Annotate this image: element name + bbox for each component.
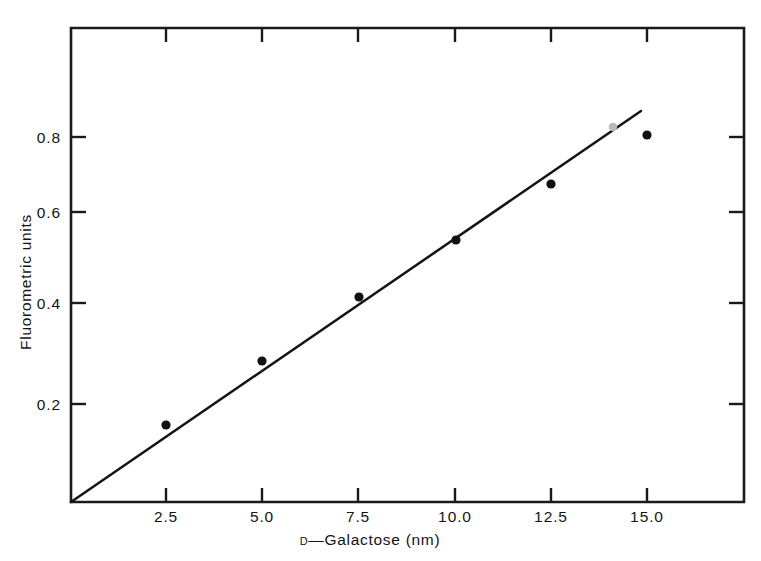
x-axis-title-prefix: D <box>300 535 309 547</box>
x-tick-label-1: 5.0 <box>250 508 274 525</box>
x-tick-labels: 2.5 5.0 7.5 10.0 12.5 15.0 <box>154 508 664 525</box>
svg-text:D—Galactose (nm): D—Galactose (nm) <box>300 531 441 548</box>
scatter-plot-svg: 2.5 5.0 7.5 10.0 12.5 15.0 0.8 0.6 0.4 0… <box>0 0 761 561</box>
data-point-4 <box>546 179 555 188</box>
x-tick-label-3: 10.0 <box>438 508 472 525</box>
x-tick-label-2: 7.5 <box>346 508 370 525</box>
y-tick-labels: 0.8 0.6 0.4 0.2 <box>37 129 61 413</box>
data-point-3 <box>451 235 460 244</box>
x-axis-ticks-top <box>166 28 647 42</box>
data-markers <box>161 130 651 429</box>
scan-artifact-spot <box>609 123 617 131</box>
x-tick-label-4: 12.5 <box>534 508 568 525</box>
x-tick-label-0: 2.5 <box>154 508 178 525</box>
data-point-5 <box>642 130 651 139</box>
y-axis-title: Fluorometric units <box>17 214 34 350</box>
plot-frame <box>71 28 744 502</box>
y-axis-ticks-left <box>71 137 86 404</box>
y-tick-label-2: 0.6 <box>37 204 61 221</box>
data-point-2 <box>354 292 363 301</box>
chart-figure: 2.5 5.0 7.5 10.0 12.5 15.0 0.8 0.6 0.4 0… <box>0 0 761 561</box>
x-axis-title: D—Galactose (nm) <box>300 531 441 548</box>
y-tick-label-1: 0.4 <box>37 295 61 312</box>
x-tick-label-5: 15.0 <box>630 508 664 525</box>
linear-fit-line <box>71 111 641 502</box>
y-axis-ticks-right <box>729 137 744 404</box>
data-point-1 <box>257 356 266 365</box>
x-axis-ticks-bottom <box>166 488 647 502</box>
fit-line-group <box>71 111 641 502</box>
x-axis-title-rest: —Galactose (nm) <box>308 531 440 548</box>
y-tick-label-3: 0.8 <box>37 129 61 146</box>
axis-box <box>71 28 744 502</box>
y-tick-label-0: 0.2 <box>37 396 61 413</box>
data-point-0 <box>161 420 170 429</box>
